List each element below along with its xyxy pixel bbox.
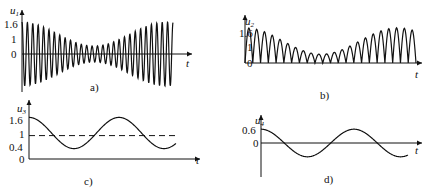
ytick-b-1: 1 bbox=[247, 42, 253, 53]
ytick-d-0: 0 bbox=[253, 138, 259, 149]
y-axis-arrow-icon bbox=[20, 10, 25, 15]
ytick-c-1: 1 bbox=[19, 129, 25, 140]
chart-a-plot bbox=[0, 0, 212, 95]
x-axis-arrow-icon bbox=[187, 52, 192, 57]
panel-d: u4 0.6 0 t d) bbox=[212, 95, 424, 190]
xlabel-d: t bbox=[415, 145, 418, 156]
chart-b-plot bbox=[212, 0, 424, 95]
panel-b: u2 1.6 1 0 t b) bbox=[212, 0, 424, 95]
chart-c-plot bbox=[0, 95, 212, 190]
envelope-curve bbox=[29, 117, 176, 148]
ytick-c-1.6: 1.6 bbox=[9, 115, 23, 126]
ytick-c-0.4: 0.4 bbox=[9, 142, 23, 153]
chart-d-plot bbox=[212, 95, 424, 190]
ylabel-d: u4 bbox=[255, 115, 264, 130]
ytick-b-1.6: 1.6 bbox=[239, 28, 253, 39]
xlabel-a: t bbox=[186, 58, 189, 69]
panel-c: u3 1.6 1 0.4 0 t c) bbox=[0, 95, 212, 190]
xlabel-c: t bbox=[196, 155, 199, 166]
ytick-a-1.6: 1.6 bbox=[4, 19, 18, 30]
ytick-a-1: 1 bbox=[11, 34, 17, 45]
ytick-b-0: 0 bbox=[247, 58, 253, 69]
xlabel-b: t bbox=[415, 69, 418, 80]
panel-a: u1 1.6 1 0 t a) bbox=[0, 0, 212, 95]
ytick-a-0: 0 bbox=[11, 49, 17, 60]
caption-a: a) bbox=[90, 81, 99, 93]
x-axis-arrow-icon bbox=[417, 61, 422, 66]
rectified-waveform bbox=[245, 28, 416, 63]
ytick-c-0: 0 bbox=[19, 154, 25, 165]
caption-d: d) bbox=[324, 173, 333, 185]
ytick-d-0.6: 0.6 bbox=[242, 125, 256, 136]
caption-c: c) bbox=[84, 175, 93, 187]
y-axis-arrow-icon bbox=[27, 100, 32, 105]
